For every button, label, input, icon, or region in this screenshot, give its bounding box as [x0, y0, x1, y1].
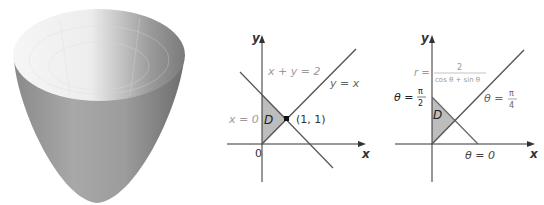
quarter-pi-den: 4 — [509, 101, 514, 110]
r-denominator: cos θ + sin θ — [435, 76, 480, 84]
r-label: r = — [414, 67, 430, 78]
polar-region-diagram: y x r = 2 cos θ + sin θ θ = π 2 θ = π 4 … — [380, 0, 544, 205]
y-axis-label: y — [421, 31, 430, 45]
half-pi-num: π — [418, 87, 423, 96]
y-axis-label: y — [252, 31, 261, 45]
y-axis-arrow-icon — [429, 35, 435, 43]
theta-zero-label: θ = 0 — [465, 149, 495, 162]
origin-label: 0 — [255, 147, 262, 160]
cartesian-region-diagram: y x 0 x + y = 2 y = x x = 0 D (1, 1) — [220, 0, 380, 205]
line-y-eq-x — [262, 49, 356, 144]
region-d-label: D — [433, 108, 442, 122]
theta-half-pi-label: θ = — [394, 91, 413, 104]
quarter-pi-num: π — [509, 89, 514, 98]
line-x-plus-y-label: x + y = 2 — [267, 65, 320, 78]
point-1-1-label: (1, 1) — [296, 113, 326, 126]
x-axis-label: x — [361, 147, 371, 161]
theta-quarter-pi-label: θ = — [484, 92, 503, 105]
r-numerator: 2 — [457, 63, 462, 72]
point-1-1 — [284, 116, 289, 121]
paraboloid-surface — [0, 0, 200, 205]
x-axis-label: x — [529, 147, 539, 161]
line-x-eq-0-label: x = 0 — [228, 113, 259, 126]
line-y-eq-x-label: y = x — [329, 77, 360, 90]
half-pi-den: 2 — [418, 99, 423, 108]
paraboloid-panel — [0, 0, 200, 205]
y-axis-arrow-icon — [259, 35, 265, 43]
region-d-label: D — [264, 113, 273, 127]
